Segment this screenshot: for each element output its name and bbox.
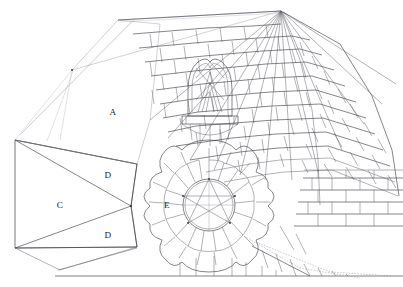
architectural-line-drawing: A C D D E xyxy=(0,0,403,287)
label-d-upper: D xyxy=(105,170,112,180)
wedge-d-lower xyxy=(15,206,137,248)
ashlar-joints xyxy=(308,170,388,226)
label-d-lower: D xyxy=(105,230,112,240)
label-e: E xyxy=(164,200,170,210)
label-a: A xyxy=(110,107,117,117)
diagram-canvas: A C D D E xyxy=(0,0,403,287)
panel-a-outline xyxy=(15,20,160,164)
panel-group-cd xyxy=(15,140,137,270)
wedge-d-upper xyxy=(15,140,137,206)
panel-c-outline xyxy=(15,140,137,248)
label-c: C xyxy=(57,200,63,210)
radiating-voussoir-courses xyxy=(118,11,399,205)
ashlar-coursed-wall xyxy=(180,170,403,278)
voussoir-joints xyxy=(150,25,396,188)
